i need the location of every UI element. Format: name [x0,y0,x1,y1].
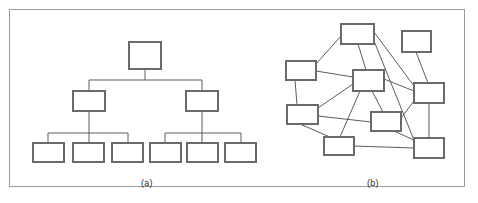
tree-node-leaf-5[interactable] [187,143,218,162]
mesh-node-3[interactable] [286,61,316,80]
mesh-node-2[interactable] [402,31,431,52]
tree-node-branch-2[interactable] [186,91,218,111]
tree-node-root[interactable] [129,42,161,69]
mesh-edge-n4-n5 [318,84,353,108]
mesh-edge-n5-n8 [372,91,383,112]
mesh-edge-n4-n7 [300,124,330,137]
mesh-node-8[interactable] [371,112,401,131]
mesh-node-5[interactable] [353,70,384,91]
mesh-edge-n2-n6 [416,52,428,83]
mesh-nodes-group [286,24,444,158]
mesh-edge-n3-n5 [316,71,353,77]
tree-node-leaf-2[interactable] [73,143,104,162]
mesh-edge-n4-n8 [318,116,371,122]
tree-node-branch-1[interactable] [73,91,105,111]
caption-panel-a: (a) [141,178,153,188]
mesh-edge-n6-n8 [401,101,414,118]
topology-diagrams-canvas [0,0,478,203]
tree-nodes-group [33,42,256,162]
mesh-edge-n5-n6 [384,79,414,91]
tree-node-leaf-4[interactable] [150,143,181,162]
mesh-node-9[interactable] [414,138,444,158]
mesh-node-6[interactable] [414,83,444,103]
mesh-node-1[interactable] [341,24,374,44]
figure-root: (a) (b) [0,0,478,203]
mesh-edge-n1-n3 [316,36,341,64]
caption-panel-b: (b) [367,178,379,188]
tree-node-leaf-3[interactable] [112,143,143,162]
mesh-edge-n3-n4 [295,80,297,105]
mesh-node-4[interactable] [287,105,318,124]
mesh-node-7[interactable] [324,137,354,155]
figure-frame: (a) (b) [9,9,465,187]
mesh-edge-n7-n9 [354,146,414,148]
tree-node-leaf-6[interactable] [225,143,256,162]
mesh-edge-n1-n5 [358,44,366,70]
mesh-edge-n5-n7 [340,91,360,137]
tree-node-leaf-1[interactable] [33,143,64,162]
